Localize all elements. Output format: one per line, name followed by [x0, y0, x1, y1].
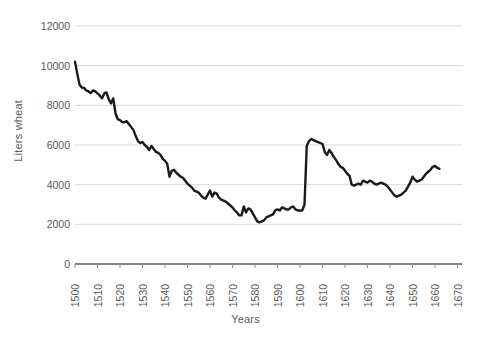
chart-container: Liters wheat 020004000600080001000012000…	[0, 0, 491, 340]
x-tick-label: 1520	[115, 273, 126, 307]
x-tick-label: 1500	[70, 273, 81, 307]
x-tick-label: 1540	[160, 273, 171, 307]
x-tick-label: 1600	[295, 273, 306, 307]
x-tick-label: 1660	[430, 273, 441, 307]
x-axis-tick-labels: 1500151015201530154015501560157015801590…	[0, 0, 491, 340]
x-tick-label: 1560	[205, 273, 216, 307]
x-tick-label: 1580	[250, 273, 261, 307]
x-axis-title: Years	[0, 313, 491, 325]
x-tick-label: 1650	[407, 273, 418, 307]
x-tick-label: 1570	[227, 273, 238, 307]
x-tick-label: 1610	[317, 273, 328, 307]
x-tick-label: 1550	[182, 273, 193, 307]
x-axis-title-label: Years	[231, 313, 260, 325]
x-tick-label: 1530	[137, 273, 148, 307]
x-tick-label: 1510	[92, 273, 103, 307]
x-tick-label: 1670	[452, 273, 463, 307]
x-tick-label: 1640	[385, 273, 396, 307]
x-tick-label: 1590	[272, 273, 283, 307]
x-tick-label: 1630	[362, 273, 373, 307]
x-tick-label: 1620	[340, 273, 351, 307]
